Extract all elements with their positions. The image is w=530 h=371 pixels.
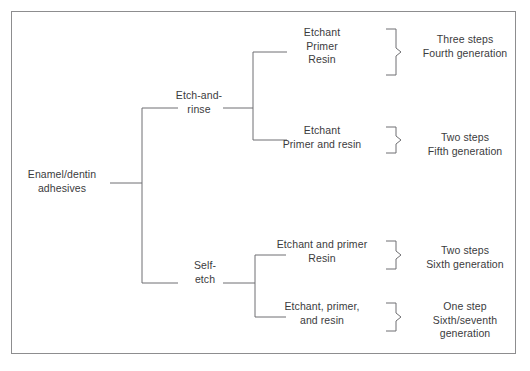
leaf-components-etchant-primer-and-resin: Etchant Primer and resin [266, 124, 378, 151]
diagram-page: Enamel/dentin adhesives Etch-and- rinse … [0, 0, 530, 371]
brace-icon-3 [386, 241, 401, 269]
leaf-components-etchant-primer-and-resin-all: Etchant, primer, and resin [262, 300, 382, 327]
leaf-outcome-etchant-and-primer-resin: Two steps Sixth generation [407, 244, 523, 271]
node-branch-etch-and-rinse: Etch-and- rinse [155, 89, 243, 116]
leaf-components-etchant-and-primer-resin: Etchant and primer Resin [262, 238, 382, 265]
leaf-outcome-etchant-primer-and-resin-all: One step Sixth/seventh generation [407, 300, 523, 341]
brace-icon-1 [386, 29, 401, 75]
brace-icon-4 [386, 303, 401, 331]
leaf-outcome-etchant-primer-and-resin: Two steps Fifth generation [407, 131, 523, 158]
node-branch-self-etch: Self- etch [167, 259, 243, 286]
brace-icon-2 [386, 127, 401, 153]
node-root: Enamel/dentin adhesives [14, 168, 110, 195]
leaf-outcome-etchant-primer-resin: Three steps Fourth generation [407, 33, 523, 60]
leaf-components-etchant-primer-resin: Etchant Primer Resin [274, 26, 370, 67]
